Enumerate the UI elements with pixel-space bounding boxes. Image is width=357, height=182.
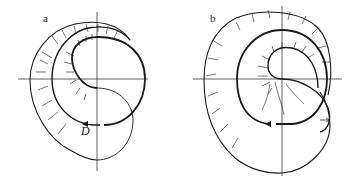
figure-canvas <box>0 0 357 182</box>
panel-b-arrow-icon <box>265 121 271 127</box>
panel-b <box>193 6 342 176</box>
panel-b-right-marker-icon <box>320 118 329 122</box>
panel-a-middle-arc <box>52 27 130 125</box>
panel-a-thick-circle <box>72 37 145 125</box>
panel-a <box>18 12 148 171</box>
panel-b-outer-envelope <box>204 12 331 173</box>
panel-a-label: a <box>43 12 48 24</box>
panel-a-marker-label: D <box>81 124 90 139</box>
panel-b-label: b <box>210 12 216 24</box>
